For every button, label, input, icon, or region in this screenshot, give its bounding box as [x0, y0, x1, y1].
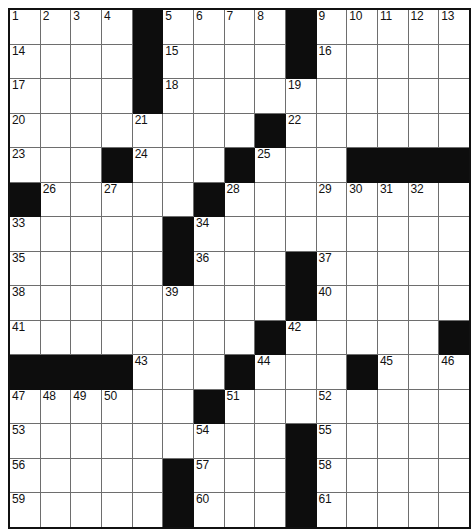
grid-cell-open[interactable]: [408, 355, 439, 390]
grid-cell-open[interactable]: 19: [285, 79, 316, 114]
grid-cell-open[interactable]: [193, 79, 224, 114]
grid-cell-open[interactable]: [408, 251, 439, 286]
grid-cell-open[interactable]: [224, 217, 255, 252]
grid-cell-open[interactable]: [439, 286, 470, 321]
grid-cell-open[interactable]: [285, 182, 316, 217]
grid-cell-open[interactable]: 53: [9, 424, 40, 459]
grid-cell-open[interactable]: [101, 458, 132, 493]
grid-cell-open[interactable]: [377, 251, 408, 286]
grid-cell-open[interactable]: [224, 458, 255, 493]
grid-cell-open[interactable]: 54: [193, 424, 224, 459]
grid-cell-open[interactable]: [408, 286, 439, 321]
grid-cell-open[interactable]: [40, 320, 71, 355]
grid-cell-open[interactable]: 8: [255, 9, 286, 44]
grid-cell-open[interactable]: [408, 79, 439, 114]
grid-cell-open[interactable]: [71, 320, 102, 355]
grid-cell-open[interactable]: 14: [9, 44, 40, 79]
grid-cell-open[interactable]: 52: [316, 389, 347, 424]
grid-cell-open[interactable]: [193, 286, 224, 321]
grid-cell-open[interactable]: 58: [316, 458, 347, 493]
grid-cell-open[interactable]: [101, 320, 132, 355]
grid-cell-open[interactable]: [377, 286, 408, 321]
grid-cell-open[interactable]: [224, 493, 255, 528]
grid-cell-open[interactable]: 29: [316, 182, 347, 217]
grid-cell-open[interactable]: [255, 44, 286, 79]
grid-cell-open[interactable]: [101, 251, 132, 286]
grid-cell-open[interactable]: [408, 493, 439, 528]
grid-cell-open[interactable]: [316, 148, 347, 183]
grid-cell-open[interactable]: [347, 113, 378, 148]
grid-cell-open[interactable]: 48: [40, 389, 71, 424]
grid-cell-open[interactable]: [316, 320, 347, 355]
grid-cell-open[interactable]: [163, 148, 194, 183]
grid-cell-open[interactable]: [71, 286, 102, 321]
grid-cell-open[interactable]: [316, 79, 347, 114]
grid-cell-open[interactable]: 27: [101, 182, 132, 217]
grid-cell-open[interactable]: 45: [377, 355, 408, 390]
grid-cell-open[interactable]: [408, 320, 439, 355]
grid-cell-open[interactable]: [347, 44, 378, 79]
grid-cell-open[interactable]: [377, 79, 408, 114]
grid-cell-open[interactable]: [132, 182, 163, 217]
grid-cell-open[interactable]: [163, 182, 194, 217]
grid-cell-open[interactable]: [377, 493, 408, 528]
grid-cell-open[interactable]: [101, 113, 132, 148]
grid-cell-open[interactable]: [132, 493, 163, 528]
grid-cell-open[interactable]: [224, 286, 255, 321]
grid-cell-open[interactable]: [101, 493, 132, 528]
grid-cell-open[interactable]: [255, 251, 286, 286]
grid-cell-open[interactable]: [163, 389, 194, 424]
grid-cell-open[interactable]: [132, 217, 163, 252]
grid-cell-open[interactable]: [132, 286, 163, 321]
grid-cell-open[interactable]: [193, 44, 224, 79]
grid-cell-open[interactable]: [101, 44, 132, 79]
grid-cell-open[interactable]: 35: [9, 251, 40, 286]
grid-cell-open[interactable]: 17: [9, 79, 40, 114]
grid-cell-open[interactable]: 44: [255, 355, 286, 390]
grid-cell-open[interactable]: [408, 458, 439, 493]
grid-cell-open[interactable]: [101, 286, 132, 321]
grid-cell-open[interactable]: [71, 113, 102, 148]
grid-cell-open[interactable]: [408, 389, 439, 424]
grid-cell-open[interactable]: [255, 217, 286, 252]
grid-cell-open[interactable]: 34: [193, 217, 224, 252]
grid-cell-open[interactable]: [101, 79, 132, 114]
grid-cell-open[interactable]: [439, 79, 470, 114]
grid-cell-open[interactable]: 36: [193, 251, 224, 286]
grid-cell-open[interactable]: [71, 493, 102, 528]
grid-cell-open[interactable]: [40, 79, 71, 114]
grid-cell-open[interactable]: 21: [132, 113, 163, 148]
grid-cell-open[interactable]: [408, 424, 439, 459]
grid-cell-open[interactable]: [224, 251, 255, 286]
grid-cell-open[interactable]: [40, 44, 71, 79]
grid-cell-open[interactable]: [377, 424, 408, 459]
grid-cell-open[interactable]: [224, 424, 255, 459]
grid-cell-open[interactable]: [439, 113, 470, 148]
grid-cell-open[interactable]: 40: [316, 286, 347, 321]
grid-cell-open[interactable]: 49: [71, 389, 102, 424]
grid-cell-open[interactable]: [40, 217, 71, 252]
grid-cell-open[interactable]: [439, 424, 470, 459]
grid-cell-open[interactable]: [224, 79, 255, 114]
grid-cell-open[interactable]: 24: [132, 148, 163, 183]
grid-cell-open[interactable]: [163, 424, 194, 459]
grid-cell-open[interactable]: [347, 320, 378, 355]
grid-cell-open[interactable]: [40, 286, 71, 321]
grid-cell-open[interactable]: [347, 424, 378, 459]
grid-cell-open[interactable]: [101, 217, 132, 252]
grid-cell-open[interactable]: 55: [316, 424, 347, 459]
grid-cell-open[interactable]: [193, 320, 224, 355]
grid-cell-open[interactable]: 2: [40, 9, 71, 44]
grid-cell-open[interactable]: 4: [101, 9, 132, 44]
grid-cell-open[interactable]: [285, 217, 316, 252]
grid-cell-open[interactable]: [255, 79, 286, 114]
grid-cell-open[interactable]: [408, 217, 439, 252]
grid-cell-open[interactable]: [347, 79, 378, 114]
grid-cell-open[interactable]: [347, 493, 378, 528]
grid-cell-open[interactable]: 28: [224, 182, 255, 217]
grid-cell-open[interactable]: [316, 113, 347, 148]
grid-cell-open[interactable]: [101, 424, 132, 459]
grid-cell-open[interactable]: [347, 286, 378, 321]
grid-cell-open[interactable]: [163, 355, 194, 390]
grid-cell-open[interactable]: [316, 355, 347, 390]
